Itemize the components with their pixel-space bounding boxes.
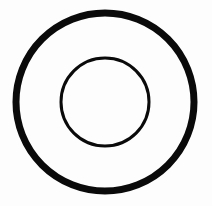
concentric-circles-diagram — [0, 0, 212, 206]
outer-circle — [16, 13, 194, 191]
inner-circle — [61, 58, 149, 146]
